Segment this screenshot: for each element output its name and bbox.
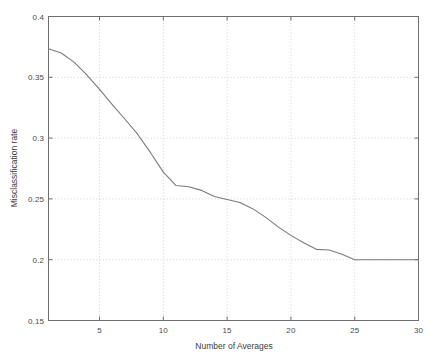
x-tick-label: 5 bbox=[97, 326, 102, 335]
y-axis-title: Misclassification rate bbox=[9, 129, 19, 207]
y-tick-label: 0.2 bbox=[12, 255, 44, 264]
axis-ticks-group bbox=[49, 17, 419, 321]
x-tick-label: 20 bbox=[286, 326, 295, 335]
y-tick-label: 0.15 bbox=[12, 316, 44, 325]
y-tick-label: 0.4 bbox=[12, 12, 44, 21]
y-tick-label: 0.35 bbox=[12, 73, 44, 82]
plot-border bbox=[49, 17, 419, 321]
x-tick-label: 25 bbox=[350, 326, 359, 335]
x-tick-label: 10 bbox=[159, 326, 168, 335]
x-tick-label: 15 bbox=[223, 326, 232, 335]
x-tick-label: 30 bbox=[414, 326, 423, 335]
chart-plot-area bbox=[0, 0, 439, 358]
gridlines-group bbox=[49, 17, 419, 321]
x-axis-title: Number of Averages bbox=[195, 341, 272, 351]
data-series-line bbox=[49, 49, 419, 260]
figure-canvas: 0.150.20.250.30.350.4 51015202530 Number… bbox=[0, 0, 439, 358]
